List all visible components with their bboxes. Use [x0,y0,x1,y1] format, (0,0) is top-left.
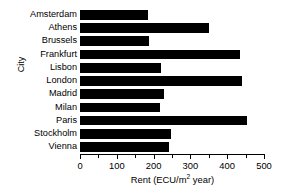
category-label-lisbon: Lisbon [8,63,77,73]
x-tick-label: 400 [219,160,235,171]
category-axis-labels: Amsterdam Athens Brussels Frankfurt Lisb… [8,10,77,152]
x-tick-label: 500 [256,160,272,171]
bar-row [80,76,264,86]
x-tick-minor [98,155,99,158]
x-tick-label: 300 [183,160,199,171]
bar-row [80,129,264,139]
x-tick-major [117,155,118,159]
x-axis-title-main: Rent (ECU/m [131,174,187,185]
x-tick-label: 0 [77,160,82,171]
bar-row [80,142,264,152]
category-label-london: London [8,76,77,86]
bar-row [80,89,264,99]
bar-series [80,10,264,152]
x-axis-title: Rent (ECU/m2 year) [80,174,265,185]
x-tick-minor [209,155,210,158]
bar-frankfurt [80,50,240,60]
bar-row [80,63,264,73]
bar-vienna [80,142,169,152]
x-tick-label: 100 [109,160,125,171]
bar-london [80,76,242,86]
x-tick-minor [246,155,247,158]
x-tick-major [80,155,81,159]
x-tick-major [264,155,265,159]
bar-stockholm [80,129,171,139]
x-tick-minor [135,155,136,158]
plot-area [80,10,264,154]
x-tick-major [190,155,191,159]
bar-row [80,116,264,126]
x-tick-major [227,155,228,159]
bar-row [80,23,264,33]
x-tick-label: 200 [146,160,162,171]
bar-amsterdam [80,10,148,20]
bar-row [80,10,264,20]
bar-milan [80,103,160,113]
bar-lisbon [80,63,161,73]
category-label-milan: Milan [8,103,77,113]
bar-brussels [80,36,149,46]
x-tick-minor [172,155,173,158]
category-label-vienna: Vienna [8,142,77,152]
category-label-athens: Athens [8,23,77,33]
category-label-paris: Paris [8,116,77,126]
x-axis-title-tail: year) [190,174,214,185]
category-label-amsterdam: Amsterdam [8,10,77,20]
category-label-madrid: Madrid [8,89,77,99]
bar-madrid [80,89,164,99]
category-label-frankfurt: Frankfurt [8,50,77,60]
bar-chart-figure: City Amsterdam Athens Brussels Frankfurt… [0,0,281,194]
category-label-stockholm: Stockholm [8,129,77,139]
x-tick-major [154,155,155,159]
bar-row [80,103,264,113]
bar-row [80,50,264,60]
bar-row [80,36,264,46]
x-axis-tick-labels: 0100200300400500 [80,160,265,172]
bar-athens [80,23,209,33]
bar-paris [80,116,247,126]
category-label-brussels: Brussels [8,36,77,46]
